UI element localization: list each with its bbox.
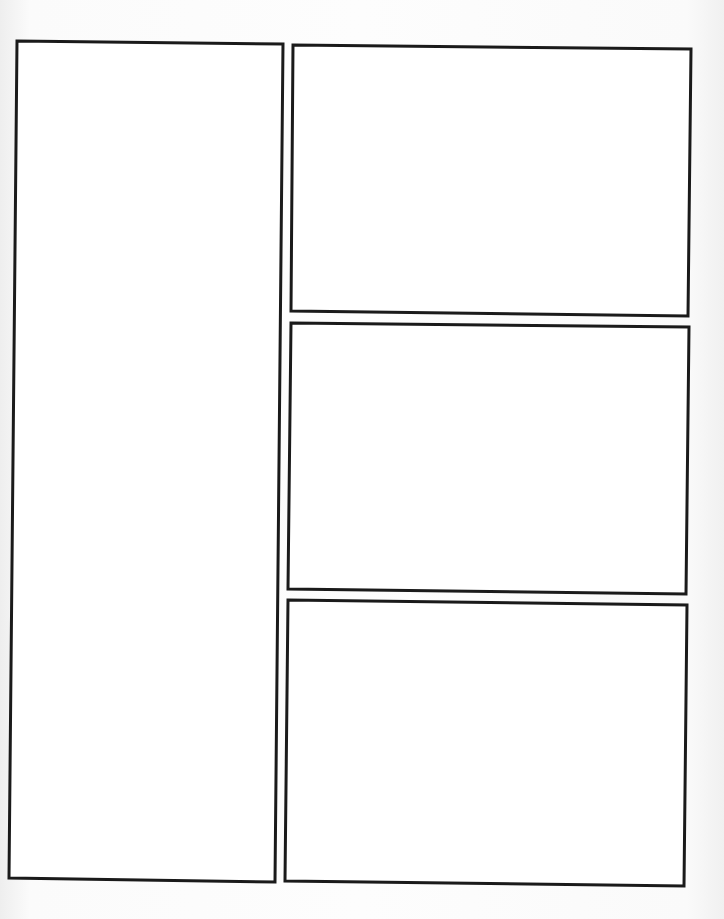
panel-right-top[interactable] [291, 45, 691, 316]
panel-left-tall[interactable] [9, 41, 283, 882]
panel-right-bottom[interactable] [285, 600, 687, 886]
panel-layout [0, 0, 724, 919]
comic-page [0, 0, 724, 919]
panel-right-middle[interactable] [288, 323, 689, 594]
